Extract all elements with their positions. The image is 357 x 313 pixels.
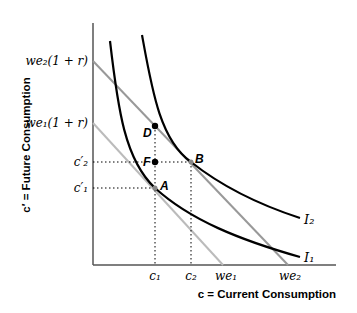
ytick-c1p: c′₁: [74, 181, 88, 195]
point-D: [152, 123, 158, 129]
ytick-we2-1r: we₂(1 + r): [25, 54, 88, 68]
point-F: [152, 159, 158, 165]
xtick-c1: c₁: [149, 269, 161, 283]
xtick-we2: we₂: [279, 269, 301, 283]
xtick-c2: c₂: [185, 269, 197, 283]
label-A: A: [159, 179, 169, 193]
label-I1: I₁: [303, 250, 314, 265]
label-I2: I₂: [303, 212, 314, 227]
ytick-c2p: c′₂: [74, 155, 88, 169]
point-B: [189, 160, 194, 165]
ytick-we1-1r: we₁(1 + r): [25, 116, 88, 130]
consumption-diagram: D F B A I₂ I₁ we₂(1 + r) we₁(1 + r) c′₂ …: [0, 0, 357, 313]
point-A: [153, 186, 158, 191]
y-axis-title: c′ = Future Consumption: [20, 77, 32, 212]
label-D: D: [143, 126, 152, 140]
xtick-we1: we₁: [215, 269, 237, 283]
x-axis-title: c = Current Consumption: [198, 288, 336, 300]
label-B: B: [195, 152, 204, 166]
indifference-curve-I1: [110, 41, 300, 257]
budget-line-1: [93, 123, 223, 265]
label-F: F: [143, 155, 151, 169]
